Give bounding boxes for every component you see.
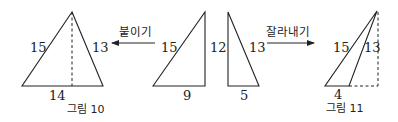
base-label: 5 (240, 88, 248, 103)
figure-caption: 그림 10 (67, 103, 105, 116)
side-label-base: 14 (49, 88, 66, 103)
hypotenuse-label: 15 (161, 40, 178, 55)
diagram-canvas: 15 13 14 그림 10 붙이기 15 12 9 13 5 잘라내기 15 … (0, 0, 398, 122)
figure-10: 15 13 14 그림 10 (22, 12, 109, 116)
right-triangle-5-12-13: 13 5 (228, 12, 266, 103)
side-label-left: 15 (333, 40, 350, 55)
attach-arrow: 붙이기 (112, 25, 155, 43)
figure-11: 15 13 4 그림 11 (325, 11, 381, 115)
height-label: 12 (210, 40, 227, 55)
cut-label: 잘라내기 (266, 25, 310, 39)
right-triangle-9-12-15: 15 12 9 (153, 12, 227, 103)
hypotenuse-label: 13 (249, 40, 266, 55)
side-label-base: 4 (334, 87, 342, 102)
side-label-right: 13 (92, 40, 109, 55)
base-label: 9 (183, 88, 191, 103)
figure-caption: 그림 11 (326, 102, 364, 115)
side-label-right: 13 (364, 40, 381, 55)
side-label-left: 15 (30, 40, 47, 55)
cut-arrow: 잘라내기 (266, 25, 314, 43)
attach-label: 붙이기 (119, 25, 152, 39)
